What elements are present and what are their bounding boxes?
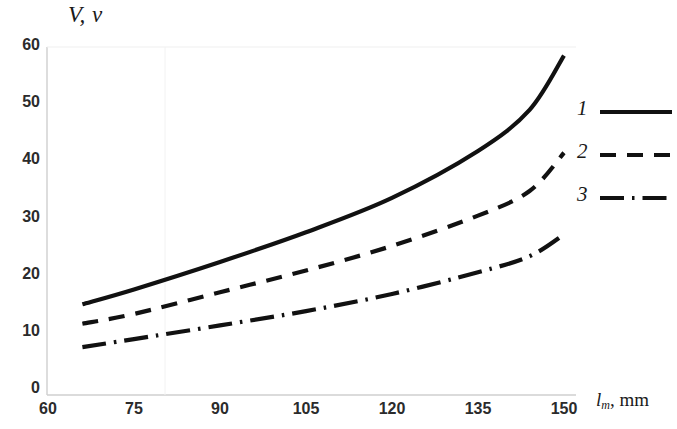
legend-label-2: 2 xyxy=(577,139,588,164)
legend-label-3: 3 xyxy=(577,182,588,207)
axis-lines xyxy=(47,47,576,395)
series-line-3 xyxy=(82,235,564,348)
series-paths xyxy=(82,56,564,348)
chart-figure: V, v lm, mm 0102030405060 60759010512013… xyxy=(0,0,677,429)
legend-label-1: 1 xyxy=(577,96,588,121)
legend-line-samples xyxy=(600,112,672,198)
plot-area xyxy=(0,0,677,429)
series-line-2 xyxy=(82,153,564,324)
